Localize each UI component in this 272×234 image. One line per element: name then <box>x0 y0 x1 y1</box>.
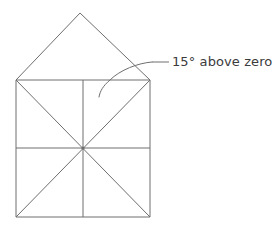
diagram-background <box>0 0 272 234</box>
annotation-label: 15° above zero <box>172 54 272 69</box>
figure-root: 15° above zero <box>0 0 272 234</box>
geometric-diagram: 15° above zero <box>0 0 272 234</box>
center-point <box>81 146 84 149</box>
